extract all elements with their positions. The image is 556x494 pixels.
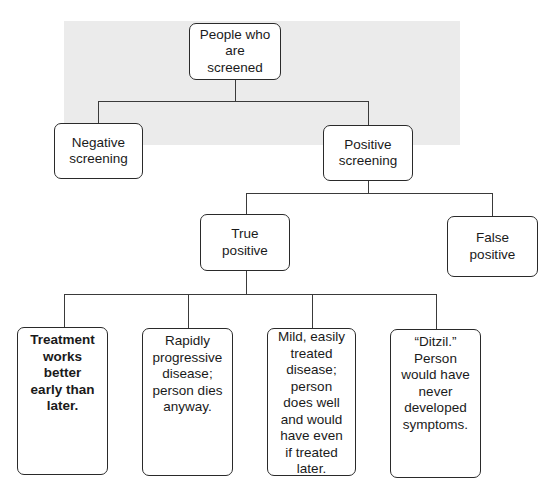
- connector: [64, 294, 437, 295]
- connector: [436, 294, 437, 329]
- node-treatment-works-better-early: Treatment works better early than later.: [17, 327, 108, 475]
- connector: [368, 101, 369, 125]
- node-label: Negative screening: [69, 135, 128, 168]
- connector: [246, 271, 247, 294]
- connector: [492, 193, 493, 216]
- connector: [98, 101, 369, 102]
- node-label: People who are screened: [200, 27, 271, 77]
- node-true-positive: True positive: [200, 214, 290, 271]
- node-rapidly-progressive: Rapidly progressive disease; person dies…: [142, 328, 233, 476]
- connector: [188, 294, 189, 328]
- node-label: False positive: [470, 230, 516, 263]
- connector: [368, 181, 369, 193]
- connector: [64, 294, 65, 327]
- connector: [246, 193, 493, 194]
- node-people-screened: People who are screened: [189, 23, 281, 80]
- node-label: Treatment works better early than later.: [30, 332, 95, 415]
- node-mild-easily-treated: Mild, easily treated disease; person doe…: [267, 328, 356, 476]
- node-label: Rapidly progressive disease; person dies…: [153, 333, 223, 416]
- node-negative-screening: Negative screening: [54, 123, 143, 179]
- connector: [235, 80, 236, 101]
- node-label: Positive screening: [339, 137, 398, 170]
- connector: [98, 101, 99, 123]
- node-label: Mild, easily treated disease; person doe…: [278, 329, 345, 478]
- connector: [312, 294, 313, 328]
- node-positive-screening: Positive screening: [323, 125, 413, 181]
- connector: [246, 193, 247, 214]
- node-label: True positive: [222, 226, 268, 259]
- node-ditzil: “Ditzil.” Person would have never develo…: [390, 329, 481, 478]
- node-false-positive: False positive: [447, 216, 538, 277]
- node-label: “Ditzil.” Person would have never develo…: [401, 334, 469, 433]
